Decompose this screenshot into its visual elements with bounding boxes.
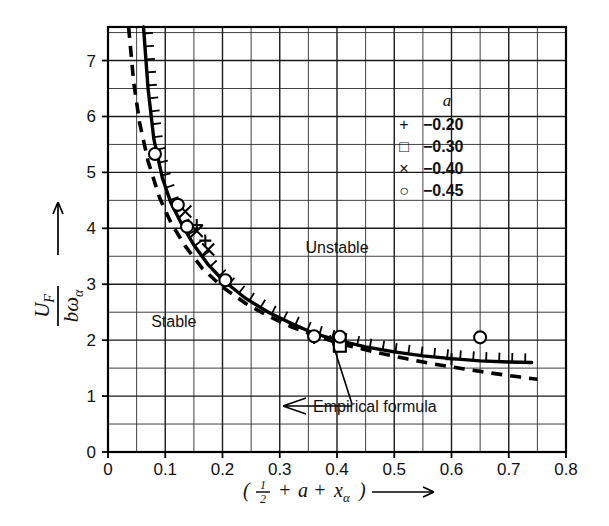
- x-axis-x: xα: [333, 479, 351, 505]
- x-tick-label: 0.4: [325, 460, 349, 479]
- x-tick-label: 0.6: [440, 460, 464, 479]
- x-tick-label: 0.2: [211, 460, 235, 479]
- x-tick-label: 0.7: [497, 460, 521, 479]
- hatch-tick: [147, 72, 156, 73]
- x-axis-plus-2: +: [313, 479, 327, 501]
- y-tick-label: 1: [87, 387, 96, 406]
- hatch-tick: [151, 110, 160, 111]
- hatch-tick: [210, 261, 217, 267]
- annotation-unstable: Unstable: [305, 239, 368, 256]
- hatch-group: [144, 33, 525, 363]
- annotation-empirical-formula: Empirical formula: [313, 398, 437, 415]
- hatch-tick: [145, 46, 154, 47]
- data-point-cross: [202, 244, 214, 256]
- legend-title: a: [443, 91, 452, 110]
- legend-value: −0.20: [423, 116, 464, 133]
- x-axis-a: a: [298, 479, 308, 501]
- hatch-tick: [249, 293, 254, 301]
- x-axis-half-fraction: 1 2: [256, 478, 270, 506]
- x-axis-title-text: (: [243, 479, 251, 502]
- y-axis-denominator: bωα: [59, 289, 86, 322]
- y-axis-numerator: UF: [30, 294, 57, 318]
- hatch-tick: [260, 300, 265, 308]
- figure-container: 00.10.20.30.40.50.60.70.801234567 Unstab…: [0, 0, 609, 526]
- flutter-boundary-chart: 00.10.20.30.40.50.60.70.801234567 Unstab…: [0, 0, 609, 526]
- y-tick-label: 6: [87, 107, 96, 126]
- legend-value: −0.30: [423, 138, 464, 155]
- data-point-circle: [474, 331, 486, 343]
- hatch-tick: [447, 349, 448, 358]
- hatch-tick: [460, 350, 461, 359]
- legend-plus-marker: +: [399, 116, 408, 133]
- data-point-circle: [149, 148, 161, 160]
- hatch-tick: [146, 59, 155, 60]
- hatch-tick: [408, 345, 409, 354]
- hatch-tick: [473, 351, 474, 360]
- legend-value: −0.40: [423, 160, 464, 177]
- data-point-circle: [172, 199, 184, 211]
- data-point-circle: [219, 274, 231, 286]
- hatch-tick: [144, 33, 153, 34]
- hatch-tick: [148, 85, 157, 86]
- y-axis-arrow: [53, 202, 63, 255]
- data-point-circle: [181, 221, 193, 233]
- hatch-tick: [283, 312, 287, 320]
- data-point-circle: [308, 330, 320, 342]
- legend-value: −0.45: [423, 182, 464, 199]
- data-point-circle: [334, 331, 346, 343]
- legend-square-marker: □: [399, 138, 409, 155]
- half-denominator: 2: [260, 492, 266, 506]
- hatch-tick: [307, 322, 311, 330]
- legend-rows: +−0.20□−0.30×−0.40○−0.45: [399, 116, 463, 199]
- hatch-tick: [154, 136, 163, 137]
- hatch-tick: [239, 286, 245, 293]
- legend-circle-marker: ○: [399, 182, 409, 199]
- y-tick-label: 7: [87, 52, 96, 71]
- y-tick-label: 5: [87, 163, 96, 182]
- x-tick-label: 0.5: [382, 460, 406, 479]
- hatch-tick: [421, 347, 422, 356]
- x-axis-plus-1: +: [278, 479, 292, 501]
- y-tick-label: 0: [87, 443, 96, 462]
- annotation-stable: Stable: [151, 313, 196, 330]
- hatch-tick: [434, 348, 435, 357]
- hatch-tick: [395, 343, 396, 352]
- hatch-tick: [272, 306, 276, 314]
- y-tick-label: 2: [87, 331, 96, 350]
- hatch-tick: [149, 97, 158, 98]
- y-axis-title: UF bωα: [30, 286, 86, 326]
- hatch-tick: [295, 317, 299, 325]
- half-numerator: 1: [260, 478, 266, 492]
- legend: a +−0.20□−0.30×−0.40○−0.45: [399, 91, 463, 199]
- y-tick-label: 4: [87, 219, 96, 238]
- x-tick-label: 0.1: [153, 460, 177, 479]
- x-tick-label: 0.3: [268, 460, 292, 479]
- x-axis-title: ( 1 2 + a + xα ): [243, 478, 434, 506]
- y-tick-label: 3: [87, 275, 96, 294]
- hatch-tick: [152, 123, 161, 124]
- x-tick-label: 0.8: [554, 460, 578, 479]
- legend-cross-marker: ×: [399, 160, 408, 177]
- x-axis-paren-close: ): [358, 479, 366, 502]
- x-tick-label: 0: [103, 460, 112, 479]
